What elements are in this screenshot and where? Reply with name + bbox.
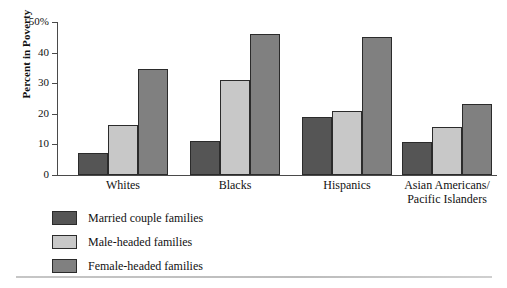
bars-layer [57, 22, 497, 175]
y-tick-label-40: 40 [13, 47, 49, 57]
legend-swatch-male-headed [52, 235, 77, 249]
legend-label-female-headed: Female-headed families [88, 259, 203, 273]
bar-3-1 [302, 117, 332, 175]
plot-area: 50% 40 30 20 10 0 [57, 22, 497, 175]
y-tick-label-0: 0 [13, 169, 49, 179]
bar-2-3 [250, 34, 280, 175]
bar-group-4 [402, 22, 492, 175]
bar-4-3 [462, 104, 492, 175]
legend-label-male-headed: Male-headed families [88, 235, 192, 249]
bar-1-3 [138, 69, 168, 175]
legend-swatch-female-headed [52, 259, 77, 273]
bottom-rule [16, 276, 492, 278]
y-tick-label-50: 50% [13, 16, 49, 26]
category-label-asian-americans: Asian Americans/ Pacific Islanders [372, 178, 507, 206]
bar-group-3 [302, 22, 392, 175]
bar-2-2 [220, 80, 250, 175]
chart-legend: Married couple families Male-headed fami… [52, 208, 203, 280]
bar-3-3 [362, 37, 392, 175]
legend-item-female-headed: Female-headed families [52, 256, 203, 276]
bar-group-1 [78, 22, 168, 175]
legend-swatch-married-couple [52, 211, 77, 225]
bar-1-1 [78, 153, 108, 175]
y-tick-label-30: 30 [13, 77, 49, 87]
bar-group-2 [190, 22, 280, 175]
poverty-bar-chart: Percent in Poverty 50% 40 30 20 [0, 0, 507, 288]
legend-item-male-headed: Male-headed families [52, 232, 203, 252]
bar-1-2 [108, 125, 138, 175]
y-tick-label-10: 10 [13, 138, 49, 148]
bar-4-1 [402, 142, 432, 175]
legend-item-married-couple: Married couple families [52, 208, 203, 228]
bar-3-2 [332, 111, 362, 175]
bar-4-2 [432, 127, 462, 175]
tick-mark [52, 175, 58, 176]
y-tick-label-20: 20 [13, 108, 49, 118]
legend-label-married-couple: Married couple families [88, 211, 203, 225]
x-axis-category-labels: Whites Blacks Hispanics Asian Americans/… [57, 178, 497, 212]
bar-2-1 [190, 141, 220, 175]
